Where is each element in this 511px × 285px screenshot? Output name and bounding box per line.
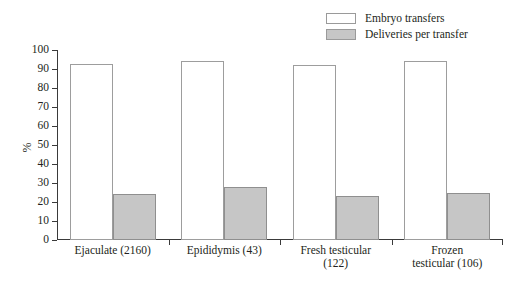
x-axis-category-label: Epididymis (43) — [169, 244, 281, 257]
legend-swatch-embryo-transfers — [326, 13, 356, 24]
legend-swatch-deliveries-per-transfer — [326, 29, 356, 40]
y-axis-line — [57, 50, 58, 240]
y-axis-tick — [52, 202, 57, 203]
legend-label-deliveries-per-transfer: Deliveries per transfer — [365, 28, 468, 40]
y-axis-tick — [52, 164, 57, 165]
y-axis-tick — [52, 107, 57, 108]
bar — [70, 64, 113, 240]
y-axis-tick-label: 40 — [38, 158, 50, 170]
y-axis-tick-label: 30 — [38, 177, 50, 189]
x-axis-category-label: Ejaculate (2160) — [57, 244, 169, 257]
x-axis-category-label: Frozen testicular (106) — [392, 244, 504, 270]
x-axis-category-label: Fresh testicular (122) — [280, 244, 392, 270]
y-axis-tick-label: 100 — [32, 44, 49, 56]
bar-chart-figure: Embryo transfers Deliveries per transfer… — [0, 0, 511, 285]
bar — [336, 196, 379, 240]
y-axis-tick-label: 60 — [38, 120, 50, 132]
y-axis-tick — [52, 240, 57, 241]
bar — [293, 65, 336, 240]
bar — [224, 187, 267, 240]
y-axis-tick-label: 80 — [38, 82, 50, 94]
bar — [113, 194, 156, 240]
y-axis-tick — [52, 145, 57, 146]
y-axis-tick-label: 0 — [43, 234, 49, 246]
y-axis-tick-label: 10 — [38, 215, 50, 227]
bar — [181, 61, 224, 240]
bar — [404, 61, 447, 240]
y-axis-title: % — [20, 143, 35, 153]
legend-label-embryo-transfers: Embryo transfers — [365, 12, 445, 24]
y-axis-tick — [52, 88, 57, 89]
y-axis-tick-label: 70 — [38, 101, 50, 113]
legend-item-deliveries-per-transfer: Deliveries per transfer — [326, 27, 506, 41]
y-axis-tick-label: 50 — [38, 139, 50, 151]
legend-item-embryo-transfers: Embryo transfers — [326, 11, 506, 25]
y-axis-tick-label: 20 — [38, 196, 50, 208]
chart-legend: Embryo transfers Deliveries per transfer — [326, 11, 506, 43]
bar — [447, 193, 490, 241]
y-axis-tick — [52, 50, 57, 51]
plot-area: 0102030405060708090100 — [57, 50, 503, 240]
y-axis-tick — [52, 221, 57, 222]
y-axis-tick — [52, 126, 57, 127]
y-axis-tick — [52, 183, 57, 184]
y-axis-tick-label: 90 — [38, 63, 50, 75]
y-axis-tick — [52, 69, 57, 70]
